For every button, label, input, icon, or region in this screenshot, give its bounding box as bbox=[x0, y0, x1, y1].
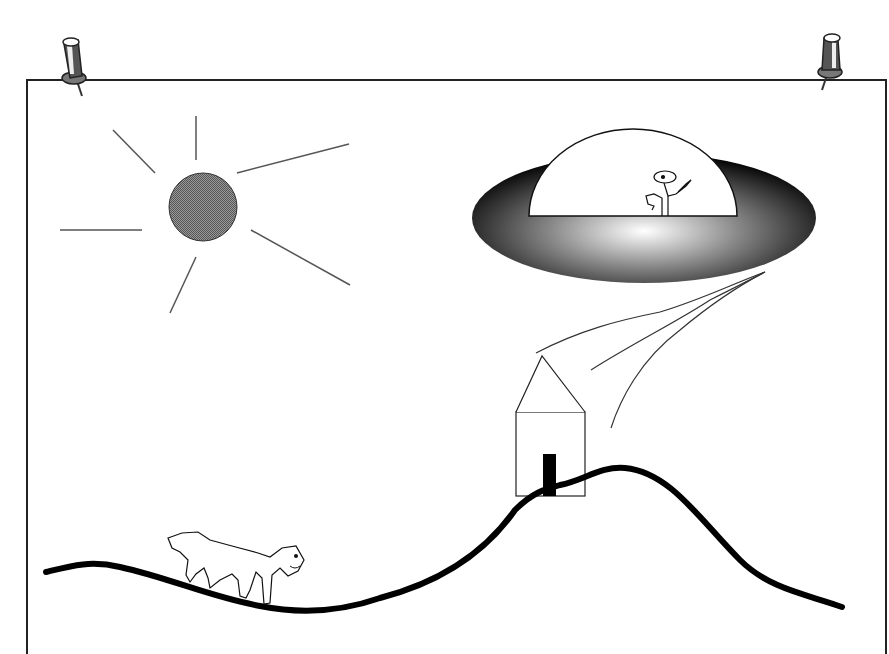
sun-disc bbox=[169, 173, 237, 241]
drawing-canvas bbox=[0, 0, 889, 654]
